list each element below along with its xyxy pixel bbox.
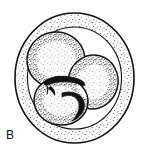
panel-label: B (6, 129, 14, 142)
blastomere-interior-stipple (0, 0, 145, 153)
blastomere-cluster (0, 0, 145, 153)
embryo-figure-panel: B (0, 0, 145, 153)
embryo-illustration (0, 0, 145, 153)
